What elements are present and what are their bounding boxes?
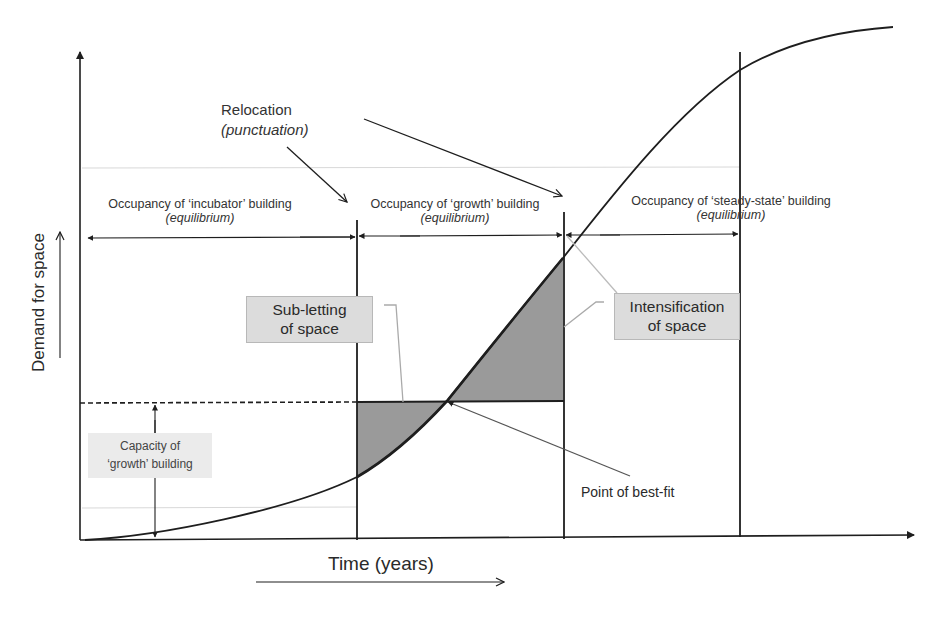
capacity-line2: ‘growth’ building bbox=[88, 456, 212, 473]
intensification-leader-line-side bbox=[564, 302, 604, 327]
intensification-line1: Intensification bbox=[615, 298, 739, 317]
y-axis-label: Demand for space bbox=[29, 233, 49, 372]
faint-guide-upper bbox=[82, 167, 740, 168]
phase-growth-title: Occupancy of ‘growth’ building bbox=[370, 197, 539, 211]
best-fit-leader-line bbox=[448, 402, 630, 476]
subletting-line1: Sub-letting bbox=[247, 301, 372, 320]
relocation-arrow-1 bbox=[287, 147, 347, 202]
phase-growth-label: Occupancy of ‘growth’ building (equilibr… bbox=[360, 197, 550, 226]
best-fit-label: Point of best-fit bbox=[581, 484, 674, 500]
relocation-label: Relocation (punctuation) bbox=[221, 100, 309, 139]
relocation-title: Relocation bbox=[221, 101, 292, 118]
diagram-canvas bbox=[0, 0, 929, 618]
phase-steady-state: (equilibrium) bbox=[618, 208, 844, 222]
phase-incubator-title: Occupancy of ‘incubator’ building bbox=[108, 197, 291, 211]
x-axis bbox=[80, 535, 914, 540]
subletting-callout: Sub-letting of space bbox=[246, 296, 373, 343]
faint-guide-lower bbox=[82, 507, 357, 508]
intensification-callout: Intensification of space bbox=[614, 293, 740, 340]
phase-steady-title: Occupancy of ‘steady-state’ building bbox=[631, 194, 831, 208]
relocation-subtitle: (punctuation) bbox=[221, 120, 309, 140]
steady-span-arrow-right bbox=[600, 234, 738, 235]
capacity-solid-line bbox=[357, 401, 564, 402]
capacity-line1: Capacity of bbox=[88, 438, 212, 455]
capacity-callout: Capacity of ‘growth’ building bbox=[88, 433, 212, 478]
subletting-leader-line bbox=[384, 305, 403, 402]
relocation-arrow-2 bbox=[364, 119, 562, 196]
intensification-leader-line-top bbox=[567, 236, 617, 293]
capacity-dashed-line bbox=[80, 402, 357, 403]
phase-growth-state: (equilibrium) bbox=[360, 211, 550, 225]
subletting-line2: of space bbox=[247, 320, 372, 339]
x-axis-label: Time (years) bbox=[328, 553, 434, 575]
phase-incubator-state: (equilibrium) bbox=[95, 211, 305, 225]
intensification-line2: of space bbox=[615, 317, 739, 336]
subletting-shaded-area bbox=[357, 401, 447, 477]
phase-incubator-label: Occupancy of ‘incubator’ building (equil… bbox=[95, 197, 305, 226]
phase-steady-label: Occupancy of ‘steady-state’ building (eq… bbox=[618, 194, 844, 223]
growth-span-arrow-right bbox=[400, 235, 562, 236]
